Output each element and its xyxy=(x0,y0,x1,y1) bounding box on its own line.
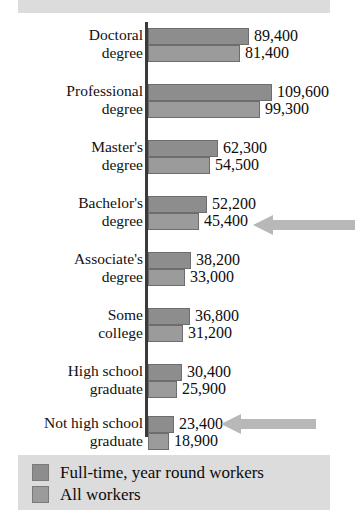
legend-swatch-all-workers xyxy=(32,486,49,503)
bar xyxy=(148,213,199,230)
top-banner-strip xyxy=(18,0,330,13)
legend-label-full-time: Full-time, year round workers xyxy=(60,461,264,485)
bar xyxy=(148,157,210,174)
bar xyxy=(148,252,191,269)
bar xyxy=(148,308,190,325)
bar-value-label: 54,500 xyxy=(215,156,259,173)
bar xyxy=(148,381,177,398)
bar-value-label: 18,900 xyxy=(174,432,218,449)
bar-value-label: 25,900 xyxy=(182,380,226,397)
legend-label-all-workers: All workers xyxy=(60,483,141,507)
plot-area: Doctoral degree89,40081,400Professional … xyxy=(0,22,355,437)
bar xyxy=(148,416,174,433)
bar-group: Associate's degree38,20033,000 xyxy=(0,252,355,286)
bar-group: Some college36,80031,200 xyxy=(0,308,355,342)
category-label: Master's degree xyxy=(3,138,143,174)
callout-arrow-left-icon xyxy=(221,413,316,435)
category-label: Bachelor's degree xyxy=(3,194,143,230)
bar-value-label: 38,200 xyxy=(196,251,240,268)
bar-value-label: 62,300 xyxy=(223,139,267,156)
bar-group: High school graduate30,40025,900 xyxy=(0,364,355,398)
bar xyxy=(148,45,240,62)
bar xyxy=(148,101,260,118)
bar xyxy=(148,325,183,342)
bar-value-label: 33,000 xyxy=(190,268,234,285)
bar xyxy=(148,196,207,213)
category-label: Some college xyxy=(3,306,143,342)
bar xyxy=(148,433,169,450)
category-label: Associate's degree xyxy=(3,250,143,286)
bar-value-label: 99,300 xyxy=(265,100,309,117)
callout-arrow-left-icon xyxy=(253,214,355,236)
bar-value-label: 23,400 xyxy=(179,415,223,432)
bar-value-label: 36,800 xyxy=(195,307,239,324)
bar-value-label: 52,200 xyxy=(212,195,256,212)
bar xyxy=(148,140,218,157)
bar-group: Doctoral degree89,40081,400 xyxy=(0,28,355,62)
chart-legend: Full-time, year round workers All worker… xyxy=(18,455,330,510)
legend-swatch-full-time xyxy=(32,464,49,481)
category-label: High school graduate xyxy=(3,362,143,398)
bar-value-label: 89,400 xyxy=(254,27,298,44)
bar-group: Master's degree62,30054,500 xyxy=(0,140,355,174)
bar-group: Professional degree109,60099,300 xyxy=(0,84,355,118)
category-label: Professional degree xyxy=(3,82,143,118)
bar-value-label: 45,400 xyxy=(204,212,248,229)
category-label: Doctoral degree xyxy=(3,26,143,62)
bar-value-label: 81,400 xyxy=(245,44,289,61)
bar-value-label: 109,600 xyxy=(277,83,329,100)
bar xyxy=(148,84,272,101)
category-label: Not high school graduate xyxy=(3,414,143,450)
chart-figure: Doctoral degree89,40081,400Professional … xyxy=(0,0,355,516)
bar-value-label: 30,400 xyxy=(187,363,231,380)
bar xyxy=(148,364,182,381)
bar xyxy=(148,28,249,45)
bar-value-label: 31,200 xyxy=(188,324,232,341)
bar xyxy=(148,269,185,286)
